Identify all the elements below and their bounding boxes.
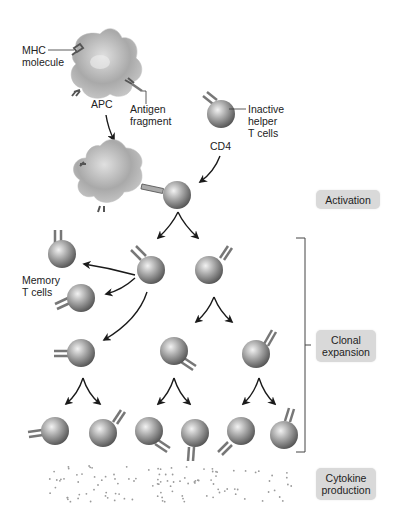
- t-cell-row3-left: [54, 339, 95, 367]
- stage-clonal-expansion: Clonal expansion: [316, 330, 376, 362]
- arrow-split3b-right: [174, 378, 190, 404]
- arrow-tcell-to-binding: [200, 156, 220, 182]
- stage-clonal-line1: Clonal: [331, 334, 361, 346]
- t-cell-row3-right: [242, 330, 276, 368]
- t-cell-row4-1: [28, 417, 69, 445]
- t-cell-activation-diagram: MHC molecule APC Antigen fragment Inacti…: [0, 0, 396, 515]
- t-cell-row4-6: [270, 408, 298, 449]
- stage-activation: Activation: [316, 190, 380, 209]
- arrow-split3c-right: [259, 378, 275, 404]
- t-cell-row3-mid: [160, 337, 196, 370]
- arrow-split2-right: [214, 297, 232, 322]
- mhc-label-2: molecule: [22, 56, 64, 68]
- antigen-label-2: fragment: [130, 115, 172, 127]
- t-cell-row4-2: [89, 410, 125, 447]
- clonal-expansion-bracket: [296, 238, 311, 452]
- stage-activation-label: Activation: [325, 194, 371, 206]
- arrow-split-right: [178, 212, 198, 238]
- apc-cell: [71, 29, 142, 99]
- arrow-split-left: [158, 212, 178, 238]
- arrow-split2-left: [196, 297, 214, 322]
- apc-label: APC: [91, 98, 113, 110]
- inactive-label-2: helper: [248, 115, 278, 127]
- arrow-to-row3-left: [104, 292, 147, 340]
- antigen-fragment-icon: [132, 84, 146, 104]
- inactive-label-3: T cells: [248, 127, 278, 139]
- t-cell-row4-3: [135, 417, 170, 452]
- arrow-split3a-right: [83, 378, 100, 404]
- stage-cytokine-line1: Cytokine: [326, 472, 367, 484]
- memory-label: Memory: [22, 274, 61, 286]
- memory-t-cell-1: [48, 230, 76, 268]
- arrow-split3c-left: [243, 378, 259, 404]
- stage-cytokine-production: Cytokine production: [316, 468, 376, 500]
- memory-label-2: T cells: [22, 286, 52, 298]
- stage-cytokine-line2: production: [321, 484, 370, 496]
- antigen-label: Antigen: [130, 103, 166, 115]
- t-cell-row4-5: [218, 417, 255, 455]
- t-cell-row2-left: [131, 246, 165, 284]
- mhc-label: MHC: [22, 44, 46, 56]
- inactive-t-cell: [203, 92, 235, 128]
- t-cell-row4-4: [181, 419, 209, 461]
- stage-clonal-line2: expansion: [322, 346, 370, 358]
- apc-tcell-binding: [73, 139, 191, 212]
- cytokine-dots: [49, 465, 292, 503]
- t-cell-row2-right: [195, 246, 232, 284]
- arrow-apc-to-binding: [106, 115, 114, 140]
- arrow-to-memory-2: [106, 278, 135, 294]
- memory-t-cell-2: [55, 284, 95, 312]
- arrow-split3a-left: [66, 378, 83, 404]
- arrow-to-memory-1: [84, 264, 135, 275]
- arrow-split3b-left: [158, 378, 174, 404]
- cd4-label: CD4: [210, 140, 231, 152]
- inactive-label: Inactive: [248, 103, 284, 115]
